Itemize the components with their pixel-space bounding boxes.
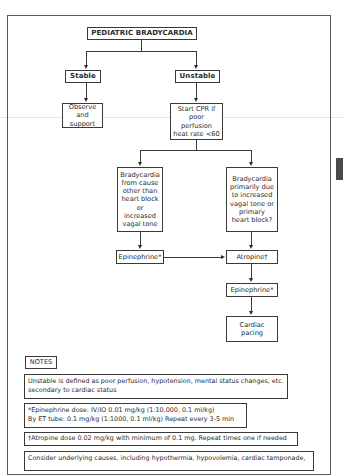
unstable-box: Unstable — [175, 70, 220, 83]
notes-header: NOTES — [25, 356, 57, 369]
note-unstable-definition: Unstable is defined as poor perfusion, h… — [24, 374, 288, 399]
cpr-box: Start CPR if poor perfusion heat rate <6… — [170, 103, 223, 140]
connector — [196, 140, 197, 150]
epinephrine-left-box: Epinephrine* — [116, 250, 164, 264]
arrow-icon — [249, 311, 253, 315]
arrow-icon — [249, 245, 253, 249]
note-epinephrine-dose: *Epinephrine dose: IV/IO 0.01 mg/kg (1:1… — [24, 403, 247, 428]
bradycardia-vagal-box: Bradycardia primarily due to increased v… — [226, 167, 278, 232]
atropine-box: Atropine† — [226, 250, 278, 264]
connector — [196, 83, 197, 98]
stable-box: Stable — [65, 70, 101, 83]
bradycardia-other-cause-box: Bradycardia from cause other than heart … — [117, 167, 163, 232]
note-underlying-causes: Consider underlying causes, including hy… — [24, 451, 314, 471]
connector — [251, 232, 252, 245]
connector — [196, 51, 197, 65]
connector — [251, 264, 252, 278]
connector — [251, 150, 252, 162]
arrow-icon — [84, 65, 88, 69]
connector — [140, 150, 252, 151]
arrow-icon — [221, 255, 225, 259]
arrow-icon — [249, 162, 253, 166]
epinephrine-right-box: Epinephrine* — [226, 283, 278, 297]
cardiac-pacing-box: Cardiac pacing — [226, 316, 278, 342]
connector — [164, 257, 222, 258]
arrow-icon — [194, 98, 198, 102]
connector — [86, 51, 197, 52]
page-edge-tab — [336, 158, 343, 180]
arrow-icon — [84, 98, 88, 102]
arrow-icon — [138, 162, 142, 166]
connector — [251, 297, 252, 311]
arrow-icon — [194, 65, 198, 69]
connector — [86, 83, 87, 98]
connector — [141, 40, 142, 51]
title-box: PEDIATRIC BRADYCARDIA — [87, 27, 197, 40]
connector — [140, 232, 141, 245]
arrow-icon — [138, 245, 142, 249]
connector — [86, 51, 87, 65]
arrow-icon — [249, 278, 253, 282]
observe-box: Observe and support — [62, 103, 103, 128]
connector — [140, 150, 141, 162]
note-atropine-dose: †Atropine dose 0.02 mg/kg with minimum o… — [24, 432, 298, 446]
